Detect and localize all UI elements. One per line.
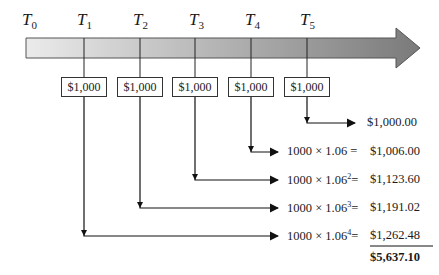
time-label-t5: T5 bbox=[300, 10, 315, 31]
time-label-t4: T4 bbox=[245, 10, 260, 31]
time-label-t3: T3 bbox=[189, 10, 204, 31]
row-expr-4: 1000 × 1.064= bbox=[287, 228, 358, 244]
time-label-t2: T2 bbox=[133, 10, 148, 31]
time-label-t0: T0 bbox=[22, 10, 37, 31]
deposit-box-3: $1,000 bbox=[172, 77, 218, 97]
deposit-box-1: $1,000 bbox=[61, 77, 107, 97]
deposit-box-4: $1,000 bbox=[228, 77, 274, 97]
row-expr-2: 1000 × 1.062= bbox=[287, 172, 358, 188]
row-expr-3: 1000 × 1.063= bbox=[287, 200, 358, 216]
row-value-1: $1,006.00 bbox=[370, 144, 420, 159]
total-value: $5,637.10 bbox=[370, 250, 420, 265]
row-value-0: $1,000.00 bbox=[367, 115, 417, 130]
row-expr-1: 1000 × 1.06 = bbox=[287, 144, 357, 159]
row-value-3: $1,191.02 bbox=[370, 200, 420, 215]
row-value-4: $1,262.48 bbox=[370, 228, 420, 243]
time-label-t1: T1 bbox=[77, 10, 92, 31]
deposit-box-2: $1,000 bbox=[117, 77, 163, 97]
row-value-2: $1,123.60 bbox=[370, 172, 420, 187]
deposit-box-5: $1,000 bbox=[284, 77, 330, 97]
timeline-arrow bbox=[26, 28, 420, 68]
